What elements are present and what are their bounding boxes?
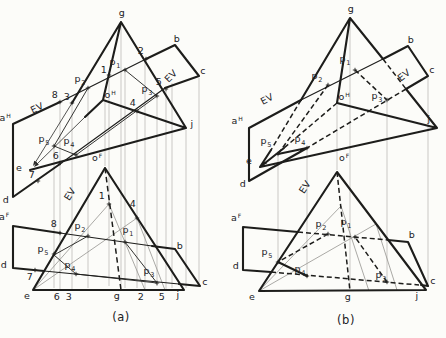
view-a-point-ticks [33, 57, 168, 285]
figure-linework [0, 0, 446, 338]
view-b-construction-lines [259, 206, 397, 291]
view-b-hidden-edges [271, 59, 419, 291]
caption-a: (a) [112, 310, 130, 324]
view-b-thick-edges [243, 18, 437, 291]
view-a-hidden-edges [105, 168, 121, 290]
view-b-projection-lines [278, 20, 428, 289]
view-b-point-ticks [276, 68, 389, 284]
caption-b: (b) [337, 313, 355, 327]
descriptive-geometry-figure: gbcjeaHdoHEVEV83p2p1125p34p5p467oFaFdbcE… [0, 0, 446, 338]
